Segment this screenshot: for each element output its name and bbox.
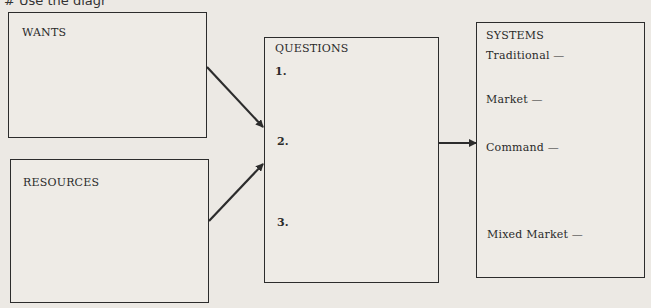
arrow-wants-to-questions <box>207 67 263 127</box>
arrow-resources-to-questions <box>209 164 263 221</box>
arrows-layer <box>0 0 651 308</box>
